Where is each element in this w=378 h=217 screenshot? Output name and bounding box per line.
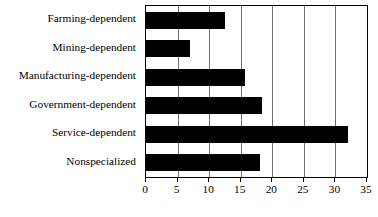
bar	[146, 154, 260, 171]
x-tick-label: 35	[360, 183, 371, 195]
bar-chart: Farming-dependentMining-dependentManufac…	[0, 0, 378, 217]
x-tick	[271, 177, 272, 182]
x-tick-label: 30	[329, 183, 340, 195]
category-label: Farming-dependent	[0, 13, 136, 24]
plot-area	[145, 5, 368, 178]
bar	[146, 69, 245, 86]
category-label: Service-dependent	[0, 127, 136, 138]
x-tick	[366, 177, 367, 182]
bar-series	[146, 6, 367, 177]
x-axis: 05101520253035	[145, 177, 366, 207]
x-tick-label: 10	[202, 183, 213, 195]
x-tick-label: 0	[142, 183, 148, 195]
bar	[146, 12, 225, 29]
x-tick	[334, 177, 335, 182]
bar	[146, 97, 262, 114]
x-tick	[145, 177, 146, 182]
category-label: Mining-dependent	[0, 42, 136, 53]
x-tick	[303, 177, 304, 182]
x-tick	[208, 177, 209, 182]
x-tick	[240, 177, 241, 182]
x-tick-label: 20	[266, 183, 277, 195]
bar	[146, 126, 348, 143]
bar	[146, 40, 190, 57]
category-label: Government-dependent	[0, 99, 136, 110]
x-tick-label: 25	[297, 183, 308, 195]
category-axis-labels: Farming-dependentMining-dependentManufac…	[0, 5, 140, 176]
x-tick-label: 15	[234, 183, 245, 195]
x-tick	[177, 177, 178, 182]
x-tick-label: 5	[174, 183, 180, 195]
category-label: Nonspecialized	[0, 156, 136, 167]
category-label: Manufacturing-dependent	[0, 70, 136, 81]
